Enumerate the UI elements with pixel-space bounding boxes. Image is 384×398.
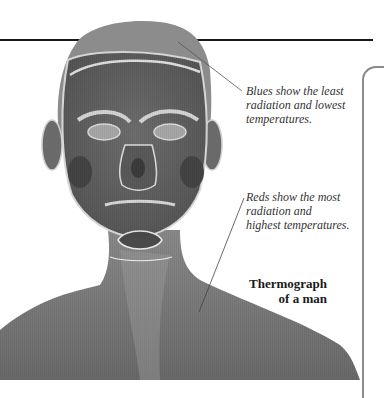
callout-blues-line-2: radiation and lowest: [246, 98, 345, 112]
callout-reds-line-2: radiation and: [246, 204, 350, 218]
caption-line-2: of a man: [249, 291, 327, 306]
callout-reds: Reds show the most radiation and highest…: [246, 190, 350, 232]
callout-blues-line-3: temperatures.: [246, 112, 345, 126]
callout-reds-line-3: highest temperatures.: [246, 218, 350, 232]
callout-reds-line-1: Reds show the most: [246, 190, 350, 204]
side-panel-border: [362, 66, 384, 398]
caption-line-1: Thermograph: [249, 276, 327, 291]
figure-caption: Thermograph of a man: [249, 276, 327, 306]
callout-blues: Blues show the least radiation and lowes…: [246, 84, 345, 126]
callout-blues-line-1: Blues show the least: [246, 84, 345, 98]
